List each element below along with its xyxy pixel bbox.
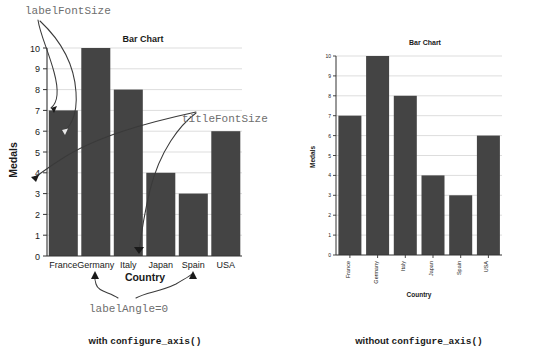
y-tick-label: 6 <box>328 133 331 139</box>
bar-italy <box>114 90 143 256</box>
chart-title: Bar Chart <box>122 34 163 44</box>
y-tick-label: 10 <box>30 44 40 54</box>
y-tick-labels: 10 9 8 7 6 5 4 3 2 1 0 <box>325 53 331 258</box>
x-tick-labels: France Germany Italy Japan Spain USA <box>345 261 490 284</box>
caption-prefix: without <box>355 335 391 346</box>
x-tick-label-germany: Germany <box>77 260 115 270</box>
y-tick-label: 2 <box>328 212 331 218</box>
x-axis-title: Country <box>125 271 165 283</box>
y-tick-label: 9 <box>35 64 40 74</box>
bar-usa <box>477 136 500 255</box>
bar-italy <box>394 96 417 255</box>
bar-spain <box>179 194 208 256</box>
y-tick-label: 7 <box>328 113 331 119</box>
x-tick-label-japan: Japan <box>428 261 434 276</box>
bar-japan <box>146 173 175 256</box>
chart-title: Bar Chart <box>409 39 442 46</box>
caption-prefix: with <box>89 335 111 346</box>
bar-germany <box>366 56 389 255</box>
x-tick-label-spain: Spain <box>182 260 205 270</box>
annotation-label-font-size: labelFontSize <box>25 5 111 17</box>
y-tick-label: 10 <box>325 53 331 59</box>
y-tick-label: 5 <box>35 148 40 158</box>
x-tick-label-usa: USA <box>483 261 489 273</box>
y-tick-label: 3 <box>328 192 331 198</box>
y-tick-label: 0 <box>35 252 40 262</box>
caption-code: configure_axis() <box>392 336 483 347</box>
y-tick-label: 8 <box>35 85 40 95</box>
bar-usa <box>211 131 240 256</box>
y-tick-label: 8 <box>328 93 331 99</box>
bar-spain <box>449 195 472 255</box>
y-tick-label: 3 <box>35 189 40 199</box>
annotation-label-angle: labelAngle=0 <box>89 303 168 315</box>
y-tick-label: 2 <box>35 210 40 220</box>
x-tick-label-spain: Spain <box>456 261 462 275</box>
x-tick-label-usa: USA <box>217 260 236 270</box>
x-tick-label-germany: Germany <box>373 261 379 284</box>
x-tick-labels: France Germany Italy Japan Spain USA <box>49 260 235 270</box>
panel-without-configure-axis: Bar Chart <box>300 0 538 330</box>
bar-japan <box>422 175 445 255</box>
x-tick-label-italy: Italy <box>120 260 137 270</box>
y-tick-label: 5 <box>328 153 331 159</box>
annotation-title-font-size: titleFontSize <box>182 113 268 125</box>
y-tick-label: 1 <box>328 232 331 238</box>
y-tick-label: 6 <box>35 127 40 137</box>
bar-germany <box>81 48 110 256</box>
figure-canvas: Bar Chart <box>0 0 538 361</box>
y-tick-label: 4 <box>328 172 331 178</box>
x-tick-label-japan: Japan <box>149 260 174 270</box>
x-axis-title: Country <box>407 291 432 299</box>
x-tick-label-france: France <box>49 260 77 270</box>
caption-without-configure-axis: without configure_axis() <box>300 335 538 347</box>
y-tick-label: 1 <box>35 231 40 241</box>
y-axis-title: Medals <box>309 146 316 168</box>
y-tick-label: 7 <box>35 106 40 116</box>
y-tick-label: 9 <box>328 73 331 79</box>
y-tick-labels: 10 9 8 7 6 5 4 3 2 1 0 <box>30 44 40 262</box>
caption-with-configure-axis: with configure_axis() <box>0 335 290 347</box>
y-tick-label: 0 <box>328 252 331 258</box>
x-tick-label-france: France <box>345 261 351 278</box>
caption-code: configure_axis() <box>110 336 201 347</box>
y-axis-title: Medals <box>7 142 19 178</box>
bar-france <box>49 110 78 256</box>
x-tick-label-italy: Italy <box>400 261 406 271</box>
y-tick-marks <box>43 48 47 256</box>
panel-with-configure-axis: Bar Chart <box>0 0 300 330</box>
bar-france <box>338 116 361 255</box>
